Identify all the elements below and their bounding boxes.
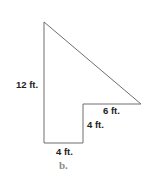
label-left-side: 12 ft. <box>16 79 38 90</box>
label-notch-vertical: 4 ft. <box>87 119 104 130</box>
composite-figure-diagram: 12 ft. 6 ft. 4 ft. 4 ft. b. <box>0 0 151 180</box>
figure-caption: b. <box>59 159 68 171</box>
label-top-notch: 6 ft. <box>103 105 120 116</box>
label-bottom: 4 ft. <box>56 146 73 157</box>
